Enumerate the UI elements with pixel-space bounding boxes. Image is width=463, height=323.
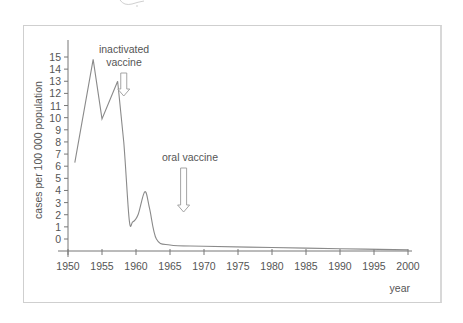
oral-vaccine-arrow-icon — [178, 168, 190, 212]
x-tick-label: 1965 — [158, 260, 182, 272]
annotations — [118, 73, 190, 212]
x-tick-label: 1985 — [294, 260, 318, 272]
x-tick-label: 1975 — [226, 260, 250, 272]
y-tick-label: 13 — [49, 75, 61, 87]
line-chart: 0123456789101112131415 19501955196019651… — [0, 0, 463, 323]
y-tick-label: 0 — [55, 233, 61, 245]
x-tick-label: 2000 — [396, 260, 420, 272]
y-tick-label: 11 — [50, 100, 61, 112]
x-tick-label: 1995 — [362, 260, 386, 272]
y-tick-label: 6 — [55, 160, 61, 172]
y-axis-title: cases per 100 000 population — [32, 81, 44, 219]
y-tick-label: 15 — [49, 51, 61, 63]
y-tick-label: 2 — [55, 209, 61, 221]
y-axis: 0123456789101112131415 — [49, 40, 68, 257]
y-tick-label: 8 — [55, 136, 61, 148]
x-tick-label: 1980 — [260, 260, 284, 272]
x-tick-label: 1960 — [124, 260, 148, 272]
x-tick-label: 1950 — [56, 260, 80, 272]
y-tick-label: 4 — [55, 184, 61, 196]
x-tick-label: 1990 — [328, 260, 352, 272]
annotation-inactivated-line2: vaccine — [106, 56, 142, 68]
y-tick-label: 3 — [55, 197, 61, 209]
y-tick-label: 14 — [49, 63, 61, 75]
x-axis: 1950195519601965197019751980198519901995… — [56, 249, 420, 272]
y-tick-label: 5 — [55, 172, 61, 184]
y-tick-label: 1 — [55, 221, 61, 233]
y-tick-label: 12 — [49, 87, 61, 99]
annotation-inactivated-line1: inactivated — [99, 43, 149, 55]
x-tick-label: 1955 — [90, 260, 114, 272]
x-axis-title: year — [390, 282, 411, 294]
y-tick-label: 7 — [55, 148, 61, 160]
inactivated-vaccine-arrow-icon — [118, 73, 130, 96]
y-tick-label: 10 — [49, 112, 61, 124]
annotation-oral: oral vaccine — [162, 151, 218, 163]
y-tick-label: 9 — [55, 124, 61, 136]
x-tick-label: 1970 — [192, 260, 216, 272]
